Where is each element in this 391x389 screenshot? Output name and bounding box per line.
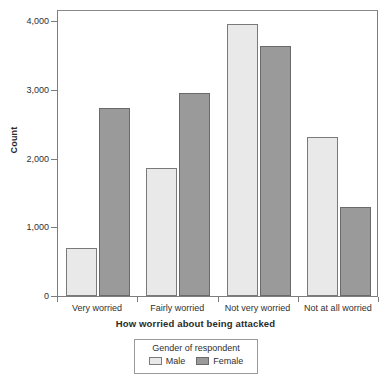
x-tick-mark — [57, 297, 58, 302]
x-tick-mark — [137, 297, 138, 302]
x-tick-label: Very worried — [57, 303, 137, 313]
bar-female-0 — [99, 108, 130, 296]
bar-male-1 — [146, 168, 177, 296]
legend: Gender of respondent MaleFemale — [134, 339, 258, 374]
x-tick-label: Not very worried — [218, 303, 298, 313]
bar-male-3 — [307, 137, 338, 297]
x-tick-label: Not at all worried — [298, 303, 378, 313]
legend-swatch-icon — [196, 357, 209, 365]
y-tick-label: 1,000 — [0, 222, 56, 233]
bar-female-3 — [340, 207, 371, 296]
legend-title: Gender of respondent — [135, 343, 257, 353]
y-tick-label: 0 — [0, 291, 56, 302]
legend-label: Male — [166, 356, 186, 366]
y-tick-label: 4,000 — [0, 16, 56, 27]
x-axis-title: How worried about being attacked — [0, 318, 391, 329]
bar-chart: Count 01,0002,0003,0004,000 Very worried… — [0, 0, 391, 389]
x-tick-label: Fairly worried — [137, 303, 217, 313]
y-tick-label: 3,000 — [0, 85, 56, 96]
x-tick-mark — [378, 297, 379, 302]
bar-female-1 — [179, 93, 210, 296]
bar-male-0 — [66, 248, 97, 296]
legend-label: Female — [213, 356, 243, 366]
bar-female-2 — [260, 46, 291, 296]
legend-item-female: Female — [196, 356, 243, 366]
x-tick-mark — [298, 297, 299, 302]
x-tick-mark — [218, 297, 219, 302]
y-tick-label: 2,000 — [0, 154, 56, 165]
legend-swatch-icon — [149, 357, 162, 365]
bar-male-2 — [227, 24, 258, 296]
legend-item-male: Male — [149, 356, 186, 366]
plot-area — [57, 10, 378, 297]
legend-items: MaleFemale — [135, 356, 257, 366]
